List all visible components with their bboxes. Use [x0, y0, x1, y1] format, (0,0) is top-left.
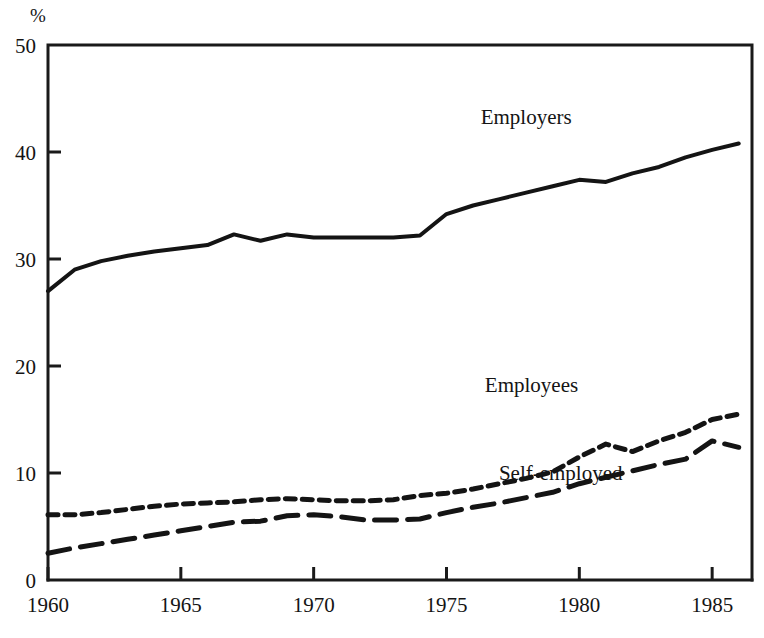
x-tick-label: 1970 — [293, 593, 335, 617]
y-axis-ticks: 01020304050 — [15, 34, 61, 593]
series-label-employers: Employers — [481, 105, 572, 129]
y-axis-unit-label: % — [30, 5, 46, 26]
x-tick-label: 1985 — [691, 593, 733, 617]
y-tick-label: 10 — [15, 462, 36, 486]
x-tick-label: 1960 — [27, 593, 69, 617]
x-tick-label: 1965 — [160, 593, 202, 617]
series-line-employees — [48, 414, 739, 515]
x-axis-ticks: 196019651970197519801985 — [27, 567, 733, 617]
series-label-employees: Employees — [485, 373, 578, 397]
line-chart: 01020304050 196019651970197519801985 Emp… — [0, 0, 764, 638]
series-label-self-employed: Self-employed — [499, 461, 623, 485]
chart-figure: 01020304050 196019651970197519801985 Emp… — [0, 0, 764, 638]
x-tick-label: 1980 — [558, 593, 600, 617]
series-group — [48, 143, 739, 553]
y-tick-label: 0 — [26, 569, 37, 593]
y-tick-label: 20 — [15, 355, 36, 379]
y-tick-label: 50 — [15, 34, 36, 58]
series-line-employers — [48, 143, 739, 291]
y-tick-label: 40 — [15, 141, 36, 165]
y-tick-label: 30 — [15, 248, 36, 272]
chart-frame — [48, 45, 752, 580]
series-labels-group: EmployersEmployeesSelf-employed — [481, 105, 623, 485]
series-line-self-employed — [48, 441, 739, 553]
plot-border — [48, 45, 752, 580]
x-tick-label: 1975 — [425, 593, 467, 617]
